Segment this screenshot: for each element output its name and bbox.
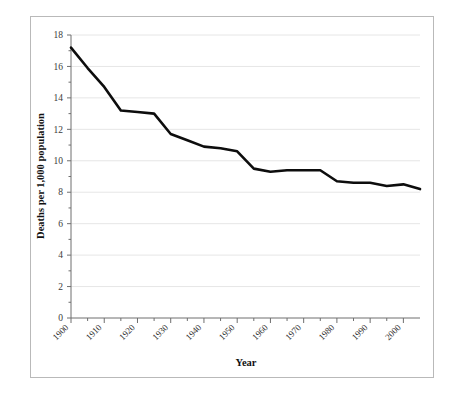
x-tick-label-1970: 1970	[283, 322, 303, 342]
x-tick-label-1980: 1980	[317, 322, 337, 342]
x-tick-labels: 1900191019201930194019501960197019801990…	[51, 322, 404, 342]
y-tick-label-10: 10	[54, 156, 64, 166]
x-tick-label-1920: 1920	[117, 322, 137, 342]
x-tick-label-1960: 1960	[250, 322, 270, 342]
x-tick-label-2000: 2000	[383, 322, 403, 342]
chart-page: 024681012141618 190019101920193019401950…	[0, 0, 463, 397]
x-tick-label-1930: 1930	[150, 322, 170, 342]
y-tick-label-16: 16	[54, 62, 64, 72]
y-tick-label-18: 18	[54, 30, 64, 40]
axis-lines	[71, 35, 420, 318]
line-chart: 024681012141618 190019101920193019401950…	[0, 0, 463, 397]
x-tick-label-1910: 1910	[84, 322, 104, 342]
y-tick-label-6: 6	[58, 219, 63, 229]
x-tick-marks	[71, 318, 403, 323]
y-tick-label-0: 0	[58, 313, 63, 323]
data-line-death-rate	[71, 48, 420, 190]
x-axis-title: Year	[236, 357, 257, 368]
y-tick-label-4: 4	[58, 250, 63, 260]
y-tick-label-8: 8	[58, 187, 63, 197]
x-tick-label-1900: 1900	[51, 322, 71, 342]
y-tick-label-12: 12	[54, 125, 64, 135]
x-tick-label-1940: 1940	[184, 322, 204, 342]
y-axis-title: Deaths per 1,000 population	[35, 113, 46, 239]
y-tick-label-14: 14	[54, 93, 64, 103]
data-series-group	[71, 48, 420, 190]
x-tick-label-1990: 1990	[350, 322, 370, 342]
x-tick-label-1950: 1950	[217, 322, 237, 342]
y-tick-marks	[67, 35, 71, 318]
y-tick-label-2: 2	[58, 282, 63, 292]
y-tick-labels: 024681012141618	[54, 30, 64, 323]
